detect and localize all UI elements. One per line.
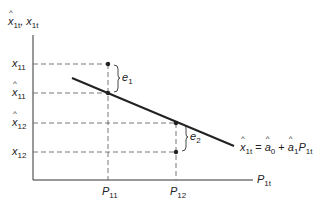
point-xhat12: [174, 121, 178, 125]
y-label-xhat: x: [8, 16, 14, 27]
regression-line: [72, 78, 234, 146]
error-e2: e2: [190, 131, 201, 142]
regression-diagram: [0, 0, 321, 209]
y-tick-xhat11: x11: [12, 87, 26, 98]
x-tick-p12: P12: [170, 186, 186, 197]
point-xhat11: [106, 91, 110, 95]
guide-lines: [33, 64, 176, 180]
x-tick-p11: P11: [102, 186, 118, 197]
point-x12: [174, 150, 178, 154]
y-axis-label: x1t, x1t: [8, 16, 38, 27]
y-label-x: x: [26, 15, 32, 27]
x-axis-label: P1t: [257, 174, 271, 185]
brace-e1: [114, 65, 120, 92]
brace-e2: [182, 124, 188, 151]
y-label-sub2: 1t: [32, 21, 39, 30]
y-tick-x12: x12: [12, 146, 26, 157]
error-e1: e1: [122, 72, 133, 83]
y-tick-xhat12: x12: [12, 117, 26, 128]
y-tick-x11: x11: [12, 58, 26, 69]
point-x11: [106, 62, 110, 66]
y-label-sub1: 1t: [14, 21, 21, 30]
regression-equation: x1t = a0 + a1P1t: [240, 142, 312, 153]
